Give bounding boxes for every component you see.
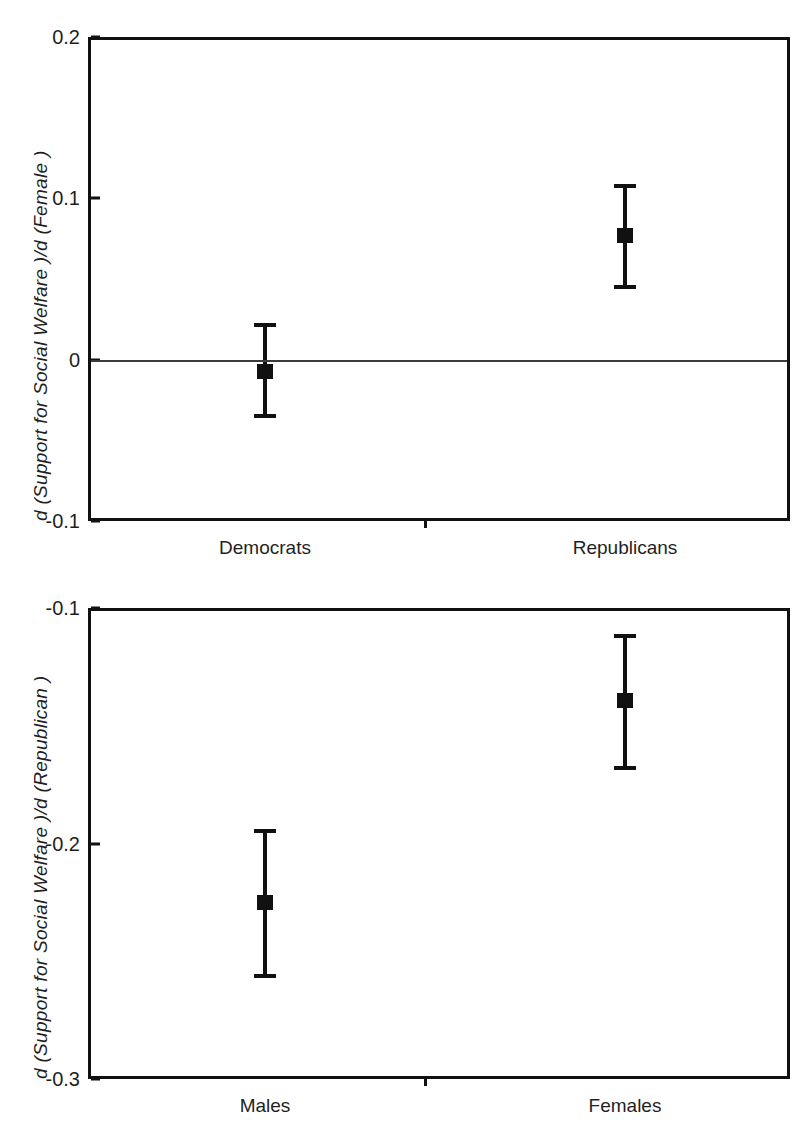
x-axis-category-label: Males bbox=[240, 1095, 291, 1117]
error-bar-cap-upper bbox=[254, 323, 276, 327]
data-point-marker bbox=[257, 364, 273, 379]
y-tick-label: 0.1 bbox=[2, 187, 80, 210]
error-bar-cap-lower bbox=[614, 766, 636, 770]
data-point-marker bbox=[617, 228, 633, 243]
error-bar-cap-upper bbox=[614, 184, 636, 188]
error-bar-cap-upper bbox=[254, 829, 276, 833]
figure-page: d (Support for Social Welfare )/d (Femal… bbox=[0, 0, 802, 1138]
y-tick-mark bbox=[91, 607, 100, 610]
y-tick-mark bbox=[91, 197, 100, 200]
error-bar-cap-lower bbox=[254, 414, 276, 418]
error-bar-cap-lower bbox=[254, 974, 276, 978]
cropped-caption-sliver bbox=[0, 0, 802, 1]
plot-frame-top bbox=[88, 37, 790, 521]
x-axis-category-label: Democrats bbox=[219, 537, 311, 559]
data-point-marker bbox=[257, 895, 273, 910]
x-axis-category-label: Republicans bbox=[573, 537, 678, 559]
y-tick-mark bbox=[91, 1078, 100, 1081]
x-axis-center-tick bbox=[424, 1076, 427, 1086]
y-axis-title-bottom: d (Support for Social Welfare )/d (Repub… bbox=[30, 676, 52, 1079]
x-axis-category-label: Females bbox=[589, 1095, 662, 1117]
y-tick-label: -0.1 bbox=[2, 597, 80, 620]
error-bar-cap-lower bbox=[614, 285, 636, 289]
zero-reference-line bbox=[91, 360, 787, 362]
data-point-marker bbox=[617, 693, 633, 708]
error-bar-cap-upper bbox=[614, 634, 636, 638]
y-tick-label: -0.2 bbox=[2, 832, 80, 855]
y-tick-label: 0.2 bbox=[2, 26, 80, 49]
plot-frame-bottom bbox=[88, 608, 790, 1079]
y-tick-label: -0.3 bbox=[2, 1068, 80, 1091]
y-tick-mark bbox=[91, 36, 100, 39]
y-tick-mark bbox=[91, 842, 100, 845]
y-tick-label: -0.1 bbox=[2, 510, 80, 533]
x-axis-center-tick bbox=[424, 518, 427, 528]
y-tick-label: 0 bbox=[2, 348, 80, 371]
y-tick-mark bbox=[91, 520, 100, 523]
